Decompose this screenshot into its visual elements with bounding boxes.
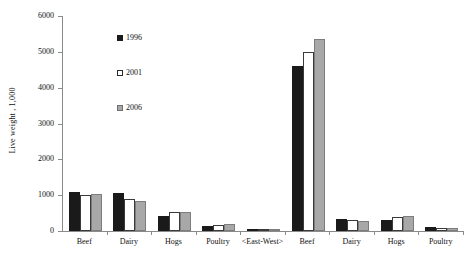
bar-group <box>419 16 464 231</box>
legend-item-label: 2001 <box>126 69 142 77</box>
x-axis-tick-label: Beef <box>285 238 330 246</box>
x-axis-tick-mark <box>463 231 464 235</box>
x-axis-tick-label: <East-West> <box>240 238 285 246</box>
bar-2006 <box>358 221 369 231</box>
legend-item-label: 2006 <box>126 104 142 112</box>
bar-group <box>241 16 286 231</box>
bar-2006 <box>314 39 325 231</box>
chart-figure: Live weight , 1,000 60005000400030002000… <box>0 0 475 269</box>
bar-2006 <box>180 212 191 231</box>
bar-2001 <box>347 220 358 231</box>
x-axis-tick-mark <box>107 231 108 235</box>
bar-group-bars <box>286 16 331 231</box>
bar-group-bars <box>63 16 108 231</box>
bar-group <box>286 16 331 231</box>
legend-item: 2006 <box>117 103 187 112</box>
bar-1996 <box>336 219 347 231</box>
bar-group-bars <box>330 16 375 231</box>
bar-group <box>330 16 375 231</box>
bar-group-bars <box>375 16 420 231</box>
x-axis-tick-label: Hogs <box>151 238 196 246</box>
y-axis-tick-label: 4000 <box>4 84 54 92</box>
bar-group-bars <box>241 16 286 231</box>
bar-2006 <box>224 224 235 231</box>
bar-group-bars <box>197 16 242 231</box>
legend-swatch-icon <box>117 105 123 111</box>
legend-swatch-icon <box>117 70 123 76</box>
x-axis-tick-mark <box>418 231 419 235</box>
bar-2001 <box>169 212 180 231</box>
y-axis-tick-label: 0 <box>4 227 54 235</box>
bar-1996 <box>69 192 80 231</box>
y-axis-tick-mark <box>58 231 63 232</box>
bar-2001 <box>258 229 269 231</box>
legend: 199620012006 <box>117 33 187 138</box>
x-axis-tick-label: Dairy <box>107 238 152 246</box>
bar-2006 <box>269 229 280 231</box>
x-axis-tick-mark <box>374 231 375 235</box>
bar-2006 <box>135 201 146 231</box>
legend-item: 1996 <box>117 33 187 42</box>
y-axis-tick-label: 3000 <box>4 120 54 128</box>
x-axis-tick-mark <box>285 231 286 235</box>
x-axis-tick-label: Dairy <box>329 238 374 246</box>
bar-2006 <box>447 228 458 231</box>
x-axis-tick-mark <box>240 231 241 235</box>
bar-2006 <box>403 216 414 231</box>
x-axis-tick-label: Beef <box>62 238 107 246</box>
legend-item: 2001 <box>117 68 187 77</box>
bar-group-bars <box>419 16 464 231</box>
x-axis-tick-mark <box>196 231 197 235</box>
x-axis-line <box>62 231 464 232</box>
bar-1996 <box>202 226 213 231</box>
y-axis-tick-label: 5000 <box>4 48 54 56</box>
bar-2001 <box>436 228 447 231</box>
y-axis-tick-label: 1000 <box>4 191 54 199</box>
bar-2001 <box>303 52 314 231</box>
y-axis-tick-label: 2000 <box>4 155 54 163</box>
bar-group <box>375 16 420 231</box>
bar-1996 <box>113 193 124 231</box>
x-axis-tick-mark <box>151 231 152 235</box>
x-axis-tick-label: Hogs <box>374 238 419 246</box>
bar-1996 <box>425 227 436 231</box>
x-axis-tick-mark <box>329 231 330 235</box>
bar-2001 <box>80 195 91 231</box>
bar-group <box>197 16 242 231</box>
bar-2001 <box>392 217 403 231</box>
bar-group <box>63 16 108 231</box>
bar-2001 <box>124 199 135 231</box>
bar-2001 <box>213 225 224 231</box>
bar-2006 <box>91 194 102 231</box>
legend-swatch-icon <box>117 35 123 41</box>
y-axis-tick-label: 6000 <box>4 12 54 20</box>
bar-1996 <box>381 220 392 231</box>
x-axis-tick-label: Poultry <box>196 238 241 246</box>
bar-1996 <box>292 66 303 231</box>
bar-1996 <box>158 216 169 231</box>
bar-1996 <box>247 229 258 231</box>
x-axis-tick-label: Poultry <box>418 238 463 246</box>
legend-item-label: 1996 <box>126 34 142 42</box>
